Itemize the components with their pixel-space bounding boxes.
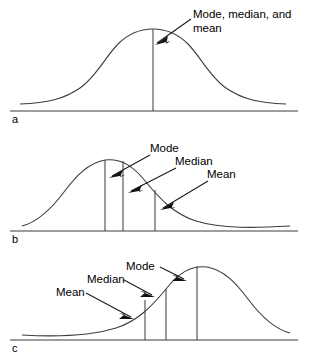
panel-b-label-mode: Mode <box>150 142 179 154</box>
panel-a-label-line1: Mode, median, and <box>193 8 291 20</box>
panel-c-label-median: Median <box>87 273 125 285</box>
panel-b-median-arrow-head <box>128 185 144 193</box>
panel-a-letter: a <box>12 113 19 125</box>
panel-b-mean-leader <box>160 181 208 210</box>
panel-c-label-mode: Mode <box>126 260 155 272</box>
figure-canvas: Mode, median, and mean a <box>0 0 312 360</box>
panel-b-skewed-curve <box>22 160 290 228</box>
panel-c: Mode Median Mean c <box>10 260 298 354</box>
panel-b: Mode Median Mean b <box>10 142 298 245</box>
panel-b-mean-arrow-head <box>160 202 176 210</box>
panel-b-letter: b <box>12 233 18 245</box>
statistics-figure: Mode, median, and mean a <box>0 0 312 360</box>
panel-c-skewed-curve <box>22 267 290 336</box>
panel-c-mode-arrow-head <box>172 275 187 281</box>
panel-a: Mode, median, and mean a <box>10 8 298 125</box>
panel-b-mode-leader <box>109 155 150 178</box>
panel-c-median-leader <box>124 280 155 297</box>
panel-c-mode-leader <box>160 267 187 281</box>
panel-c-mean-arrow-head <box>119 313 134 319</box>
panel-b-label-median: Median <box>175 155 213 167</box>
panel-c-label-mean: Mean <box>56 286 85 298</box>
panel-a-label-line2: mean <box>193 22 222 34</box>
panel-c-mean-leader <box>86 293 134 319</box>
panel-c-letter: c <box>12 342 18 354</box>
panel-b-label-mean: Mean <box>207 168 236 180</box>
panel-a-arrow-head <box>155 36 170 45</box>
panel-c-median-arrow-head <box>140 291 155 297</box>
